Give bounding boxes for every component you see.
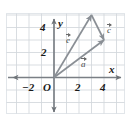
y-tick-label-4: 4 xyxy=(40,22,46,33)
y-axis-label: y xyxy=(58,18,63,29)
origin-label: O xyxy=(43,82,51,93)
x-tick-label-2: 2 xyxy=(75,82,81,93)
vector-c-overarrow-icon xyxy=(107,24,111,25)
vector-e-overarrow-icon xyxy=(66,34,70,35)
x-axis-label: x xyxy=(109,64,115,75)
vector-diagram-figure: 4 2 −2 2 4 O y x e a c xyxy=(0,0,131,125)
vector-a-overarrow-icon xyxy=(81,58,86,59)
vector-c-label: c xyxy=(107,24,111,35)
x-tick-label-neg2: −2 xyxy=(22,82,34,93)
vector-e-label: e xyxy=(66,34,70,45)
x-tick-label-4: 4 xyxy=(100,82,106,93)
y-tick-label-2: 2 xyxy=(41,47,47,58)
vector-a-label: a xyxy=(81,58,86,69)
